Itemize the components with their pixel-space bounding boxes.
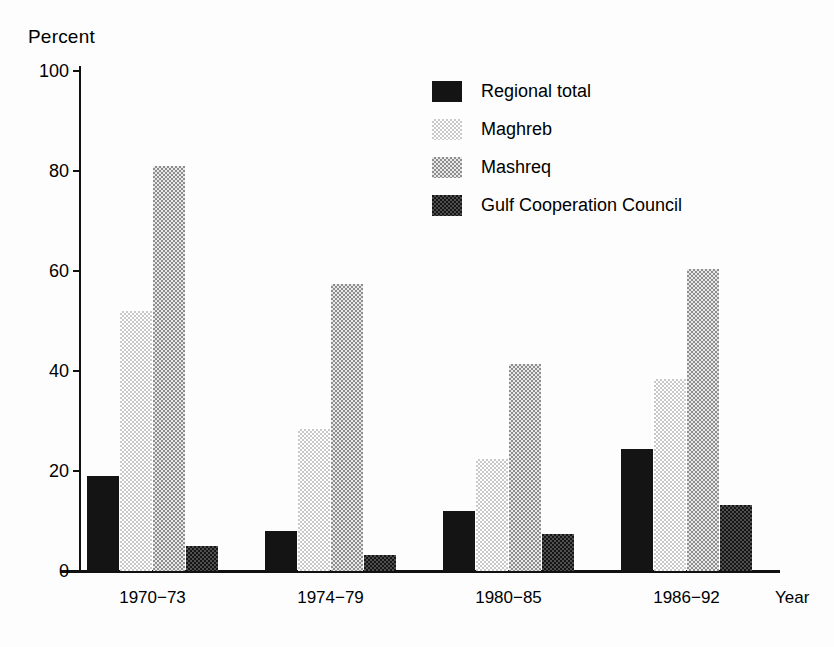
bar bbox=[443, 511, 475, 571]
bar bbox=[331, 284, 363, 572]
y-axis-title: Percent bbox=[28, 26, 95, 48]
legend-swatch bbox=[432, 81, 462, 102]
bar bbox=[509, 364, 541, 572]
legend-label: Mashreq bbox=[481, 157, 551, 178]
y-tick-label: 100 bbox=[27, 62, 69, 80]
legend-item: Regional total bbox=[432, 72, 682, 110]
y-tick-label: 40 bbox=[27, 362, 69, 380]
x-tick-label: 1974−79 bbox=[271, 588, 391, 608]
legend-item: Gulf Cooperation Council bbox=[432, 186, 682, 224]
y-tick-label: 20 bbox=[27, 462, 69, 480]
bar bbox=[120, 311, 152, 571]
y-tick-label: 80 bbox=[27, 162, 69, 180]
bar bbox=[476, 459, 508, 572]
x-axis-title: Year bbox=[775, 588, 809, 608]
bar bbox=[720, 505, 752, 571]
x-tick-label: 1970−73 bbox=[93, 588, 213, 608]
chart-legend: Regional totalMaghrebMashreqGulf Coopera… bbox=[432, 72, 682, 224]
bar bbox=[186, 546, 218, 571]
bar bbox=[621, 449, 653, 572]
y-tick-label: 60 bbox=[27, 262, 69, 280]
bar-chart: Percent 020406080100 1970−731974−791980−… bbox=[0, 0, 834, 647]
bar bbox=[654, 379, 686, 572]
legend-label: Gulf Cooperation Council bbox=[481, 195, 682, 216]
bar bbox=[687, 269, 719, 572]
x-tick-label: 1980−85 bbox=[449, 588, 569, 608]
bar bbox=[265, 531, 297, 571]
bar bbox=[364, 555, 396, 571]
legend-swatch bbox=[432, 195, 462, 216]
legend-swatch bbox=[432, 157, 462, 178]
y-tick-label: 0 bbox=[27, 562, 69, 580]
legend-label: Regional total bbox=[481, 81, 591, 102]
bar bbox=[298, 429, 330, 572]
x-tick-label: 1986−92 bbox=[627, 588, 747, 608]
legend-label: Maghreb bbox=[481, 119, 552, 140]
bar bbox=[153, 166, 185, 571]
bar bbox=[542, 534, 574, 572]
legend-item: Maghreb bbox=[432, 110, 682, 148]
legend-swatch bbox=[432, 119, 462, 140]
legend-item: Mashreq bbox=[432, 148, 682, 186]
bar bbox=[87, 476, 119, 571]
